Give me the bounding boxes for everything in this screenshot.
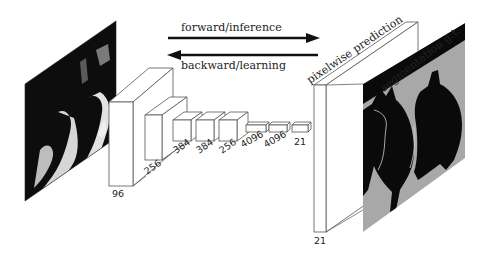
- layer-label-96: 96: [112, 188, 124, 199]
- layer-label-21: 21: [294, 136, 306, 147]
- forward-label: forward/inference: [181, 21, 282, 34]
- prediction-channels-label: 21: [314, 235, 326, 246]
- layer-block-21: [292, 122, 311, 132]
- forward-arrow: [168, 33, 320, 43]
- fcn-diagram: forward/inference backward/learning: [0, 0, 480, 260]
- backward-label: backward/learning: [181, 59, 286, 72]
- input-image: [20, 15, 120, 205]
